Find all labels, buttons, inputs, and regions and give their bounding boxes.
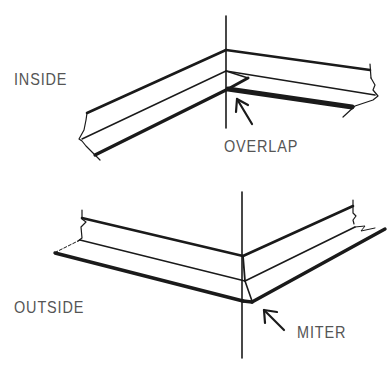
molding-corner-diagram: INSIDE OVERLAP OUTSIDE MITER: [0, 0, 392, 370]
miter-callout: MITER: [297, 323, 346, 343]
outside-label: OUTSIDE: [14, 298, 84, 318]
overlap-callout: OVERLAP: [224, 137, 298, 157]
inside-label: INSIDE: [14, 70, 67, 90]
